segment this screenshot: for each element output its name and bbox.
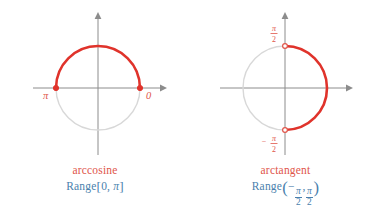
endpoint-label-negative-pi-over-two: − π 2 (262, 134, 278, 154)
arctangent-title: arctangent (190, 163, 381, 178)
range-negative-sign: − (288, 180, 295, 192)
endpoint-marker-pi-over-two (283, 44, 288, 49)
endpoint-label-pi-over-two-denominator: 2 (272, 35, 276, 44)
arccosine-panel: 0 π arccosine Range[0, π] (0, 0, 190, 206)
range-upper-bound-fraction: π2 (306, 187, 313, 206)
endpoint-marker-zero (137, 85, 142, 90)
endpoint-label-negative-pi-over-two-numerator: π (272, 134, 277, 143)
inverse-trig-range-figure: 0 π arccosine Range[0, π] (0, 0, 381, 206)
x-axis (220, 85, 353, 92)
arccosine-unit-circle-plot: 0 π (0, 0, 190, 165)
arctangent-panel: π 2 − π 2 arctangent Range(−π2,π2) (190, 0, 381, 206)
arctangent-unit-circle-plot: π 2 − π 2 (190, 0, 381, 165)
arctangent-captions: arctangent Range(−π2,π2) (190, 163, 381, 206)
endpoint-label-negative-pi-over-two-denominator: 2 (272, 145, 276, 154)
range-lower-numerator: π (295, 187, 302, 198)
endpoint-label-pi: π (43, 90, 49, 101)
arccosine-range: Range[0, π] (0, 178, 190, 195)
range-close-bracket: ] (119, 179, 124, 194)
endpoint-label-negative-sign: − (262, 137, 267, 146)
y-axis (282, 12, 289, 155)
range-prefix: Range (252, 180, 282, 192)
endpoint-label-zero: 0 (146, 90, 152, 101)
range-close-paren: ) (314, 178, 320, 197)
endpoint-marker-pi (53, 85, 58, 90)
endpoint-label-pi-over-two-numerator: π (272, 24, 277, 33)
range-upper-numerator: π (306, 187, 313, 198)
range-upper-denominator: 2 (306, 198, 313, 206)
range-prefix: Range (66, 180, 96, 192)
arctangent-range: Range(−π2,π2) (190, 178, 381, 206)
range-lower-bound-fraction: π2 (295, 187, 302, 206)
endpoint-label-pi-over-two: π 2 (271, 24, 278, 44)
range-separator: , (107, 180, 110, 192)
arccosine-title: arccosine (0, 163, 190, 178)
y-axis (95, 12, 102, 155)
range-lower-denominator: 2 (295, 198, 302, 206)
endpoint-marker-negative-pi-over-two (283, 128, 288, 133)
arccosine-captions: arccosine Range[0, π] (0, 163, 190, 195)
